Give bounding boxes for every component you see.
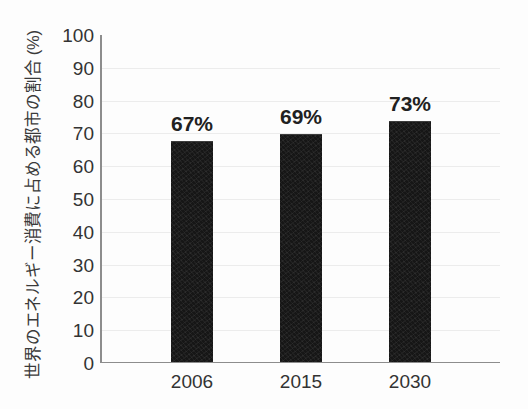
y-tick-label: 80 [50,91,94,110]
bar-2015[interactable] [280,134,322,361]
gridline [101,68,500,69]
plot-area: 67% 69% 73% [100,35,500,363]
y-axis-tick-labels: 100 90 80 70 60 50 40 30 20 10 0 [46,35,94,363]
y-tick-label: 0 [50,354,94,373]
x-tick-label-2030: 2030 [355,372,465,391]
bar-chart-figure: 世界のエネルギー消費に占める都市の割合 (%) 100 90 80 70 60 … [0,0,528,409]
bar-value-label-2006: 67% [149,113,235,134]
y-tick-label: 30 [50,255,94,274]
y-tick-label: 90 [50,58,94,77]
y-axis-line [100,35,102,363]
bar-2030[interactable] [389,121,431,361]
y-tick-label: 50 [50,190,94,209]
y-tick-label: 70 [50,124,94,143]
y-tick-label: 20 [50,288,94,307]
y-tick-label: 40 [50,222,94,241]
x-tick-label-2006: 2006 [137,372,247,391]
y-tick-label: 100 [50,26,94,45]
bar-2006[interactable] [171,141,213,362]
bar-value-label-2030: 73% [367,93,453,114]
bar-value-label-2015: 69% [258,106,344,127]
x-tick-label-2015: 2015 [246,372,356,391]
x-axis-line [100,362,500,364]
y-tick-label: 10 [50,321,94,340]
y-tick-label: 60 [50,157,94,176]
